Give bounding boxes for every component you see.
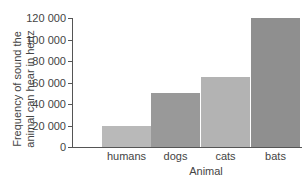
bar-dogs: [151, 93, 200, 147]
y-tick-label: 60 000: [20, 77, 66, 89]
y-tick-label: 0: [20, 141, 66, 153]
y-tick-label: 120 000: [20, 12, 66, 24]
category-label-humans: humans: [102, 150, 151, 162]
y-tick: [68, 61, 72, 62]
y-tick: [68, 104, 72, 105]
category-label-bats: bats: [251, 150, 300, 162]
y-tick: [68, 126, 72, 127]
y-tick-label: 20 000: [20, 120, 66, 132]
y-tick-label: 40 000: [20, 98, 66, 110]
bar-bats: [251, 18, 300, 147]
x-axis: [72, 147, 302, 148]
y-tick: [68, 83, 72, 84]
y-tick: [68, 40, 72, 41]
y-tick: [68, 18, 72, 19]
bar-chart: Frequency of sound the animal can hear i…: [0, 0, 308, 184]
y-tick: [68, 147, 72, 148]
category-label-dogs: dogs: [151, 150, 200, 162]
y-tick-label: 80 000: [20, 55, 66, 67]
bar-humans: [102, 126, 151, 147]
y-tick-label: 100 000: [20, 34, 66, 46]
bar-cats: [201, 77, 250, 147]
category-label-cats: cats: [201, 150, 250, 162]
x-axis-label: Animal: [176, 165, 236, 177]
y-axis: [72, 18, 73, 148]
